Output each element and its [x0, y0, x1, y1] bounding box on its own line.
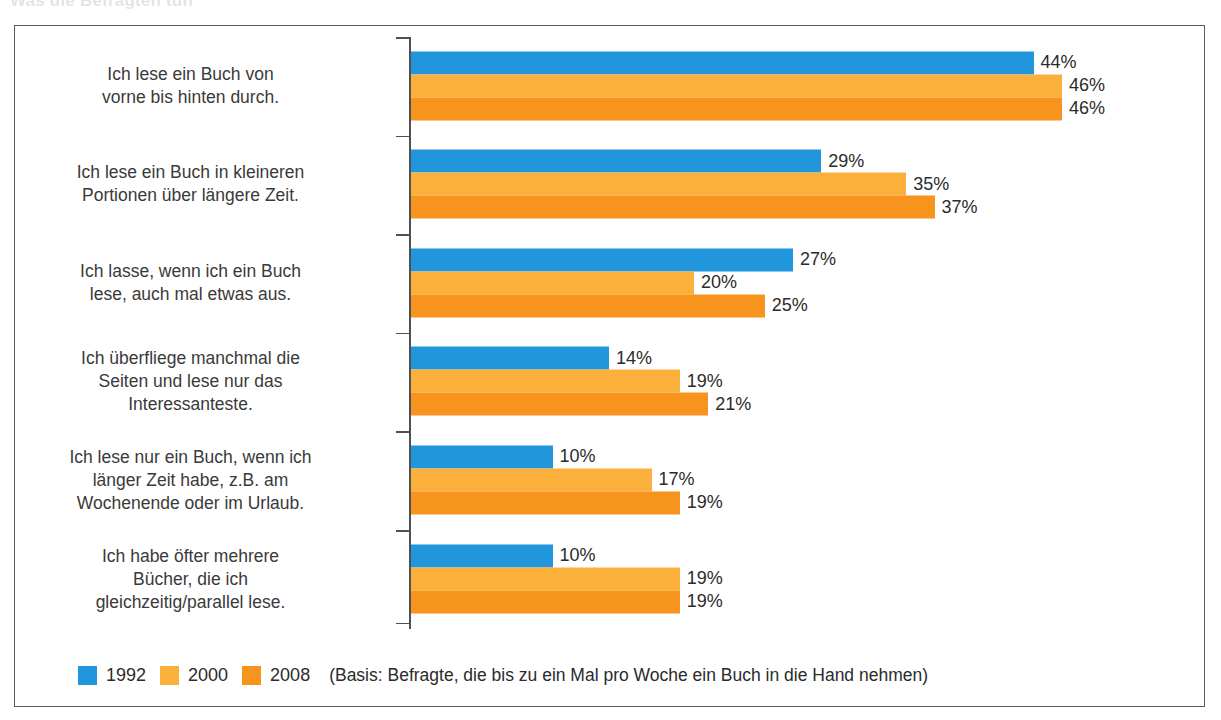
bar-group: 14%19%21%	[411, 347, 1191, 416]
axis-tick	[396, 623, 410, 625]
bar-row: 44%	[411, 51, 1191, 74]
category-label-line: gleichzeitig/parallel lese.	[13, 590, 368, 613]
bar-group: 10%19%19%	[411, 544, 1191, 613]
bar-value-label: 35%	[906, 174, 949, 195]
bar-1992[interactable]	[411, 248, 793, 271]
legend-label-2008: 2008	[270, 665, 310, 686]
bar-2000[interactable]	[411, 74, 1062, 97]
axis-tick	[396, 431, 410, 433]
bar-row: 35%	[411, 173, 1191, 196]
bar-2008[interactable]	[411, 590, 680, 613]
category-label-line: lese, auch mal etwas aus.	[13, 283, 368, 306]
chart-panel: Ich lese ein Buch vonvorne bis hinten du…	[14, 25, 1205, 707]
category-label: Ich lasse, wenn ich ein Buchlese, auch m…	[13, 260, 368, 306]
category-label: Ich lese nur ein Buch, wenn ichlänger Ze…	[13, 445, 368, 514]
legend-swatch-icon-2000	[160, 666, 179, 685]
bar-row: 17%	[411, 468, 1191, 491]
chart-legend: 1992 2000 2008 (Basis: Befragte, die bis…	[15, 658, 1204, 692]
bar-value-label: 17%	[652, 469, 695, 490]
bar-row: 19%	[411, 590, 1191, 613]
bar-row: 14%	[411, 347, 1191, 370]
category-label-line: vorne bis hinten durch.	[13, 86, 368, 109]
bar-2008[interactable]	[411, 196, 935, 219]
legend-swatch-icon-1992	[78, 666, 97, 685]
bar-value-label: 25%	[765, 295, 808, 316]
bar-value-label: 14%	[609, 348, 652, 369]
bar-2008[interactable]	[411, 97, 1062, 120]
bar-1992[interactable]	[411, 544, 553, 567]
category-label-line: Ich lese ein Buch in kleineren	[13, 161, 368, 184]
bar-1992[interactable]	[411, 51, 1034, 74]
category-label: Ich habe öfter mehrereBücher, die ichgle…	[13, 544, 368, 613]
bar-2008[interactable]	[411, 294, 765, 317]
bar-row: 19%	[411, 491, 1191, 514]
legend-label-2000: 2000	[188, 665, 228, 686]
bar-1992[interactable]	[411, 445, 553, 468]
bar-row: 25%	[411, 294, 1191, 317]
category-label: Ich lese ein Buch vonvorne bis hinten du…	[13, 63, 368, 109]
axis-tick	[396, 333, 410, 335]
bar-value-label: 10%	[553, 545, 596, 566]
bar-2008[interactable]	[411, 491, 680, 514]
axis-tick	[396, 530, 410, 532]
category-label-line: Seiten und lese nur das	[13, 370, 368, 393]
legend-label-1992: 1992	[106, 665, 146, 686]
category-label-line: Ich lasse, wenn ich ein Buch	[13, 260, 368, 283]
bar-2000[interactable]	[411, 370, 680, 393]
axis-tick	[396, 37, 410, 39]
bar-value-label: 20%	[694, 272, 737, 293]
bar-value-label: 46%	[1062, 98, 1105, 119]
category-label-line: Ich lese nur ein Buch, wenn ich	[13, 445, 368, 468]
bar-row: 46%	[411, 74, 1191, 97]
bar-value-label: 19%	[680, 568, 723, 589]
bar-2008[interactable]	[411, 393, 708, 416]
bar-row: 10%	[411, 544, 1191, 567]
bar-row: 27%	[411, 248, 1191, 271]
bar-value-label: 46%	[1062, 75, 1105, 96]
legend-swatch-icon-2008	[242, 666, 261, 685]
legend-item-1992[interactable]: 1992	[78, 665, 146, 686]
bar-2000[interactable]	[411, 271, 694, 294]
bar-2000[interactable]	[411, 173, 906, 196]
bar-value-label: 37%	[935, 197, 978, 218]
bar-group: 29%35%37%	[411, 150, 1191, 219]
bar-1992[interactable]	[411, 347, 609, 370]
category-label-line: Ich lese ein Buch von	[13, 63, 368, 86]
chart-row: Ich lese ein Buch in kleinerenPortionen …	[15, 136, 1204, 233]
bar-row: 19%	[411, 370, 1191, 393]
bar-value-label: 27%	[793, 249, 836, 270]
chart-row: Ich lese nur ein Buch, wenn ichlänger Ze…	[15, 431, 1204, 528]
category-label-line: Ich habe öfter mehrere	[13, 544, 368, 567]
category-label: Ich überfliege manchmal dieSeiten und le…	[13, 347, 368, 416]
category-label-line: Bücher, die ich	[13, 567, 368, 590]
bar-group: 10%17%19%	[411, 445, 1191, 514]
bar-row: 10%	[411, 445, 1191, 468]
chart-row: Ich lasse, wenn ich ein Buchlese, auch m…	[15, 234, 1204, 331]
bar-group: 27%20%25%	[411, 248, 1191, 317]
category-label-line: Wochenende oder im Urlaub.	[13, 491, 368, 514]
bar-row: 19%	[411, 567, 1191, 590]
bar-value-label: 29%	[821, 151, 864, 172]
category-label-line: Interessanteste.	[13, 393, 368, 416]
bar-row: 20%	[411, 271, 1191, 294]
bar-value-label: 44%	[1034, 52, 1077, 73]
category-label: Ich lese ein Buch in kleinerenPortionen …	[13, 161, 368, 207]
bar-row: 29%	[411, 150, 1191, 173]
bar-2000[interactable]	[411, 468, 652, 491]
bar-row: 37%	[411, 196, 1191, 219]
chart-row: Ich überfliege manchmal dieSeiten und le…	[15, 333, 1204, 430]
category-label-line: Portionen über längere Zeit.	[13, 184, 368, 207]
legend-item-2000[interactable]: 2000	[160, 665, 228, 686]
bar-row: 46%	[411, 97, 1191, 120]
bar-value-label: 10%	[553, 446, 596, 467]
chart-row: Ich lese ein Buch vonvorne bis hinten du…	[15, 37, 1204, 134]
legend-basis-note: (Basis: Befragte, die bis zu ein Mal pro…	[329, 665, 928, 686]
chart-row: Ich habe öfter mehrereBücher, die ichgle…	[15, 530, 1204, 627]
axis-tick	[396, 234, 410, 236]
bar-value-label: 19%	[680, 492, 723, 513]
bar-value-label: 21%	[708, 394, 751, 415]
bar-1992[interactable]	[411, 150, 821, 173]
bar-2000[interactable]	[411, 567, 680, 590]
category-label-line: länger Zeit habe, z.B. am	[13, 468, 368, 491]
legend-item-2008[interactable]: 2008	[242, 665, 310, 686]
